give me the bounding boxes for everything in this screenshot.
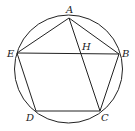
label-c: C: [101, 112, 109, 123]
diagonal-eb: [17, 53, 119, 54]
label-a: A: [65, 4, 73, 15]
circumscribed-circle: [15, 15, 123, 123]
label-h: H: [81, 41, 91, 52]
pentagon-abcde: [17, 18, 119, 111]
geometry-diagram: A B C D E H: [0, 0, 135, 131]
label-e: E: [6, 48, 15, 59]
diagonal-ac: [69, 18, 100, 111]
label-b: B: [121, 48, 129, 59]
label-d: D: [25, 112, 34, 123]
